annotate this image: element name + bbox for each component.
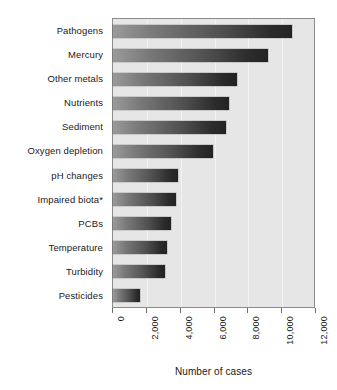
bar — [113, 217, 171, 230]
plot-area — [112, 18, 315, 308]
category-label: Turbidity — [0, 260, 108, 284]
category-label: Impaired biota* — [0, 187, 108, 211]
category-label: Sediment — [0, 115, 108, 139]
category-axis: PathogensMercuryOther metalsNutrientsSed… — [0, 18, 108, 308]
tick-mark — [146, 308, 147, 313]
bar-row — [113, 43, 314, 67]
tick-mark — [247, 308, 248, 313]
category-label: pH changes — [0, 163, 108, 187]
bar-row — [113, 235, 314, 259]
bar — [113, 25, 292, 38]
x-axis-title: Number of cases — [112, 366, 315, 377]
tick-mark — [214, 308, 215, 313]
category-label: Other metals — [0, 66, 108, 90]
bar — [113, 145, 213, 158]
tick-mark — [180, 308, 181, 313]
tick-label: 10,000 — [285, 316, 295, 345]
tick-mark — [281, 308, 282, 313]
category-label: Nutrients — [0, 91, 108, 115]
tick-label: 8,000 — [251, 316, 261, 340]
bar — [113, 289, 140, 302]
tick-label: 6,000 — [218, 316, 228, 340]
bar — [113, 193, 176, 206]
tick-mark — [315, 308, 316, 313]
bar — [113, 265, 165, 278]
bar-row — [113, 283, 314, 307]
tick-mark — [112, 308, 113, 313]
bar — [113, 169, 178, 182]
bar-row — [113, 115, 314, 139]
bar-row — [113, 163, 314, 187]
bars-layer — [113, 19, 314, 307]
bar-row — [113, 67, 314, 91]
bar — [113, 121, 226, 134]
bar — [113, 241, 167, 254]
bar — [113, 73, 237, 86]
tick-label: 2,000 — [150, 316, 160, 340]
category-label: Temperature — [0, 236, 108, 260]
bar-row — [113, 91, 314, 115]
bar-row — [113, 19, 314, 43]
bar-row — [113, 211, 314, 235]
category-label: Pathogens — [0, 18, 108, 42]
category-label: PCBs — [0, 211, 108, 235]
bar-chart: PathogensMercuryOther metalsNutrientsSed… — [0, 0, 337, 390]
x-axis: 02,0004,0006,0008,00010,00012,000 — [112, 308, 315, 316]
bar-row — [113, 139, 314, 163]
bar — [113, 97, 229, 110]
bar-row — [113, 187, 314, 211]
category-label: Pesticides — [0, 284, 108, 308]
category-label: Mercury — [0, 42, 108, 66]
tick-label: 4,000 — [184, 316, 194, 340]
tick-label: 12,000 — [319, 316, 329, 345]
tick-label: 0 — [116, 316, 126, 321]
bar-row — [113, 259, 314, 283]
category-label: Oxygen depletion — [0, 139, 108, 163]
bar — [113, 49, 268, 62]
